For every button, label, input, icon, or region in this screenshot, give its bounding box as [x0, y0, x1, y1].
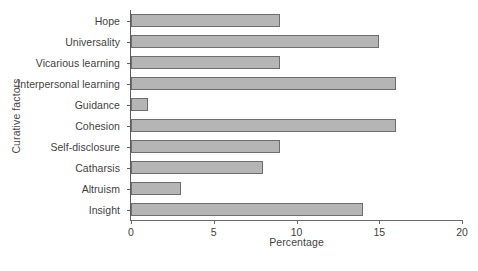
bar-slot — [131, 94, 462, 115]
bar — [131, 161, 263, 174]
x-axis-tick — [131, 220, 132, 224]
bar-slot — [131, 157, 462, 178]
y-axis-tick — [127, 21, 131, 22]
bar — [131, 203, 363, 216]
y-axis-tick-label: Insight — [0, 199, 126, 220]
bar — [131, 182, 181, 195]
plot-area: 05101520 — [131, 10, 462, 220]
y-axis-tick — [127, 42, 131, 43]
y-axis-tick — [127, 105, 131, 106]
bar-series — [131, 10, 462, 220]
y-axis-tick-label: Cohesion — [0, 115, 126, 136]
x-axis-title: Percentage — [131, 236, 462, 248]
y-axis-tick — [127, 63, 131, 64]
bar-slot — [131, 52, 462, 73]
bar-slot — [131, 136, 462, 157]
bar-slot — [131, 31, 462, 52]
x-axis-tick — [214, 220, 215, 224]
bar — [131, 56, 280, 69]
y-axis-tick — [127, 126, 131, 127]
y-axis-tick-label: Altruism — [0, 178, 126, 199]
bar — [131, 98, 148, 111]
y-axis-tick-label: Vicarious learning — [0, 52, 126, 73]
bar-slot — [131, 73, 462, 94]
y-axis-tick — [127, 210, 131, 211]
bar — [131, 35, 379, 48]
y-axis-tick — [127, 147, 131, 148]
bar-slot — [131, 199, 462, 220]
bar — [131, 140, 280, 153]
y-axis-tick — [127, 168, 131, 169]
bar — [131, 14, 280, 27]
y-axis-tick — [127, 189, 131, 190]
x-axis-tick — [379, 220, 380, 224]
y-axis-tick-label: Hope — [0, 10, 126, 31]
bar-slot — [131, 115, 462, 136]
x-axis-tick — [462, 220, 463, 224]
y-axis-tick-label: Universality — [0, 31, 126, 52]
y-axis-tick-label: Self-disclosure — [0, 136, 126, 157]
y-axis-tick — [127, 84, 131, 85]
bar — [131, 77, 396, 90]
y-axis-tick-labels: Hope Universality Vicarious learning Int… — [0, 10, 126, 220]
y-axis-tick-label: Catharsis — [0, 157, 126, 178]
bar-slot — [131, 178, 462, 199]
x-axis-tick — [297, 220, 298, 224]
bar-chart: Curative factors Hope Universality Vicar… — [0, 0, 478, 271]
bar-slot — [131, 10, 462, 31]
y-axis-tick-label: Interpersonal learning — [0, 73, 126, 94]
y-axis-tick-label: Guidance — [0, 94, 126, 115]
bar — [131, 119, 396, 132]
